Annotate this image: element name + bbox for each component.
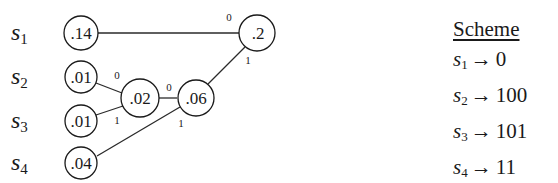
- svg-text:.2: .2: [252, 24, 265, 43]
- code-value: 11: [496, 155, 516, 179]
- edge-label-s3-1: 1: [114, 114, 120, 126]
- coding-scheme: Scheme s1→0 s2→100 s3→101 s4→11: [453, 14, 527, 183]
- svg-text:.14: .14: [70, 24, 92, 43]
- svg-text:.06: .06: [185, 89, 206, 108]
- edge-label-s2-0: 0: [114, 69, 120, 81]
- edge-n06-to-n2: [208, 47, 245, 84]
- code-value: 0: [496, 47, 507, 71]
- scheme-title: Scheme: [453, 14, 527, 44]
- arrow-icon: →: [471, 83, 492, 107]
- edge-label-n02-0: 0: [166, 81, 172, 93]
- edge-label-s4-1: 1: [178, 117, 184, 129]
- code-value: 100: [496, 83, 528, 107]
- scheme-row-s4: s4→11: [453, 152, 527, 183]
- node-06: .06: [178, 80, 214, 116]
- node-2: .2: [239, 15, 275, 51]
- node-s2: .01: [65, 61, 97, 93]
- svg-text:.04: .04: [70, 154, 92, 173]
- edge-label-n06-1: 1: [245, 54, 251, 66]
- node-02: .02: [121, 79, 159, 117]
- edge-label-s1-0: 0: [226, 11, 232, 23]
- arrow-icon: →: [471, 155, 492, 179]
- arrow-icon: →: [471, 47, 492, 71]
- scheme-row-s2: s2→100: [453, 80, 527, 116]
- arrow-icon: →: [471, 119, 492, 143]
- scheme-row-s3: s3→101: [453, 116, 527, 152]
- node-s3: .01: [65, 105, 97, 137]
- edge-s2-to-n02: [96, 83, 122, 93]
- scheme-row-s1: s1→0: [453, 44, 527, 80]
- svg-text:.01: .01: [70, 68, 91, 87]
- node-s4: .04: [65, 147, 97, 179]
- code-value: 101: [496, 119, 528, 143]
- svg-text:.02: .02: [129, 89, 150, 108]
- huffman-tree: .14 .01 .01 .04 .02 .06 .2 0 1 0 1 0 1: [0, 0, 300, 183]
- svg-text:.01: .01: [70, 112, 91, 131]
- node-s1: .14: [64, 16, 98, 50]
